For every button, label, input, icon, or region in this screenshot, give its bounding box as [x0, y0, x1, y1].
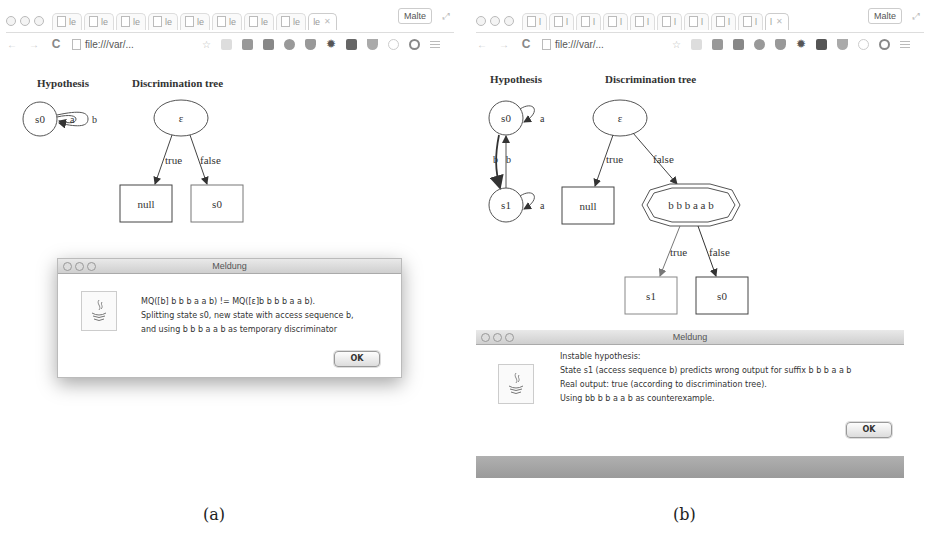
browser-tab[interactable]: le — [148, 13, 178, 30]
drive-icon[interactable] — [242, 39, 253, 50]
svg-text:b: b — [506, 154, 511, 165]
state-s0: s0 — [489, 101, 523, 135]
fullscreen-icon[interactable]: ⤢ — [443, 11, 450, 22]
save-icon[interactable] — [221, 39, 232, 50]
bookmark-star-icon[interactable]: ☆ — [672, 39, 681, 50]
panel-b: l l l l l l l l l l✕ Malte ⤢ ← → C file:… — [470, 0, 930, 490]
close-tab-icon[interactable]: ✕ — [324, 17, 331, 26]
file-icon — [689, 16, 698, 27]
file-icon — [608, 16, 617, 27]
browser-tab[interactable]: l — [738, 13, 763, 30]
browser-tab[interactable]: l — [684, 13, 709, 30]
close-window-button[interactable] — [476, 16, 486, 26]
file-icon — [542, 39, 551, 50]
browser-tab-active[interactable]: le✕ — [308, 13, 337, 30]
maximize-window-button[interactable] — [34, 16, 44, 26]
file-icon — [581, 16, 590, 27]
save-icon[interactable] — [691, 39, 702, 50]
svg-text:s1: s1 — [501, 199, 511, 211]
minimize-window-button[interactable] — [490, 16, 500, 26]
profile-button[interactable]: Malte — [398, 8, 432, 24]
dialog-close-button[interactable] — [63, 262, 72, 271]
dialog-close-button[interactable] — [481, 333, 490, 342]
browser-tab[interactable]: l — [657, 13, 682, 30]
graph-area: Hypothesis Discrimination tree s0 a b ε … — [0, 60, 460, 260]
menu-icon[interactable] — [430, 41, 440, 48]
svg-text:b: b — [92, 114, 97, 125]
browser-tab[interactable]: le — [52, 13, 82, 30]
browser-tab[interactable]: le — [180, 13, 210, 30]
lightbulb-icon[interactable] — [858, 39, 869, 50]
tree-root: ε — [154, 100, 208, 136]
browser-tab[interactable]: l — [711, 13, 736, 30]
browser-tab[interactable]: le — [276, 13, 306, 30]
dialog-minimize-button[interactable] — [75, 262, 84, 271]
file-icon — [743, 16, 752, 27]
ok-button[interactable]: OK — [334, 351, 380, 367]
drive-icon[interactable] — [712, 39, 723, 50]
pinterest-icon[interactable] — [879, 39, 890, 50]
klout-icon[interactable] — [816, 39, 827, 50]
address-bar[interactable]: file:///var/... — [72, 37, 192, 51]
gear-icon[interactable]: ✹ — [326, 37, 336, 51]
reload-button[interactable]: C — [50, 37, 62, 51]
address-bar[interactable]: file:///var/... — [542, 37, 662, 51]
graph-svg: s0 a b ε true false null s0 — [0, 60, 460, 260]
svg-text:s0: s0 — [212, 198, 222, 210]
facebook-icon[interactable] — [263, 39, 274, 50]
browser-tab[interactable]: l — [630, 13, 655, 30]
pinterest-icon[interactable] — [409, 39, 420, 50]
browser-tab[interactable]: le — [116, 13, 146, 30]
graph-area: Hypothesis Discrimination tree s0 a s1 a — [470, 60, 930, 320]
file-icon — [281, 16, 290, 27]
dialog-zoom-button[interactable] — [87, 262, 96, 271]
browser-tab-active[interactable]: l✕ — [765, 13, 789, 30]
pocket-icon[interactable] — [305, 39, 316, 50]
forward-button[interactable]: → — [498, 39, 510, 50]
file-icon — [185, 16, 194, 27]
svg-text:null: null — [579, 200, 596, 212]
gear-icon[interactable]: ✹ — [796, 37, 806, 51]
browser-toolbar: ← → C file:///var/... ☆ ✹ — [6, 34, 454, 54]
forward-button[interactable]: → — [28, 39, 40, 50]
java-icon — [498, 364, 534, 404]
dialog-title: Meldung — [212, 261, 247, 271]
evernote-icon[interactable] — [837, 39, 848, 50]
facebook-icon[interactable] — [733, 39, 744, 50]
file-icon — [217, 16, 226, 27]
adblock-icon[interactable] — [754, 39, 765, 50]
evernote-icon[interactable] — [367, 39, 378, 50]
lightbulb-icon[interactable] — [388, 39, 399, 50]
close-tab-icon[interactable]: ✕ — [776, 17, 783, 26]
profile-button[interactable]: Malte — [868, 8, 902, 24]
bookmark-star-icon[interactable]: ☆ — [202, 39, 211, 50]
dialog-minimize-button[interactable] — [493, 333, 502, 342]
svg-text:true: true — [670, 246, 687, 258]
minimize-window-button[interactable] — [20, 16, 30, 26]
klout-icon[interactable] — [346, 39, 357, 50]
close-window-button[interactable] — [6, 16, 16, 26]
browser-tabbar: l l l l l l l l l l✕ Malte ⤢ — [476, 10, 924, 32]
fullscreen-icon[interactable]: ⤢ — [913, 11, 920, 22]
browser-tab[interactable]: l — [522, 13, 547, 30]
browser-tab[interactable]: le — [84, 13, 114, 30]
adblock-icon[interactable] — [284, 39, 295, 50]
reload-button[interactable]: C — [520, 37, 532, 51]
svg-text:s1: s1 — [646, 290, 656, 302]
browser-toolbar: ← → C file:///var/... ☆ ✹ — [476, 34, 924, 54]
browser-tab[interactable]: le — [212, 13, 242, 30]
svg-text:s0: s0 — [501, 112, 511, 124]
tree-leaf-null: null — [562, 187, 614, 224]
ok-button[interactable]: OK — [846, 422, 892, 438]
browser-tab[interactable]: l — [603, 13, 628, 30]
browser-tab[interactable]: le — [244, 13, 274, 30]
browser-tab[interactable]: l — [549, 13, 574, 30]
back-button[interactable]: ← — [6, 39, 18, 50]
pocket-icon[interactable] — [775, 39, 786, 50]
dialog-zoom-button[interactable] — [505, 333, 514, 342]
maximize-window-button[interactable] — [504, 16, 514, 26]
divider — [476, 32, 924, 33]
browser-tab[interactable]: l — [576, 13, 601, 30]
back-button[interactable]: ← — [476, 39, 488, 50]
menu-icon[interactable] — [900, 41, 910, 48]
